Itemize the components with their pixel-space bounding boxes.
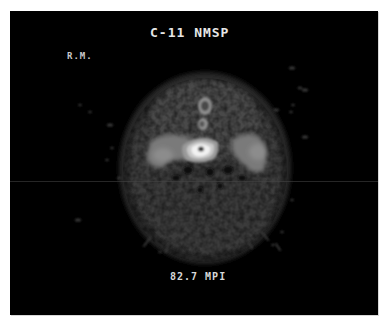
scan-title: C-11 NMSP — [150, 25, 229, 40]
scan-artifact-line — [10, 181, 378, 182]
patient-initials: R.M. — [67, 51, 93, 61]
scan-caption: 82.7 MPI — [170, 271, 226, 282]
